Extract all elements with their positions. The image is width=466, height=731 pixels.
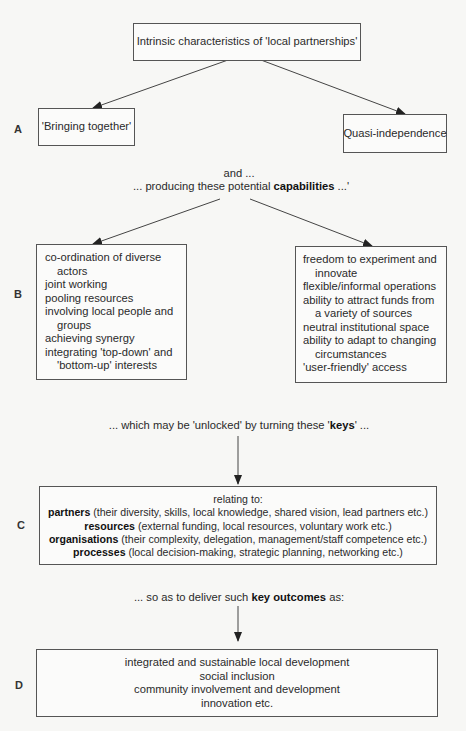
capability-item: ability to attract funds from a variety … — [303, 294, 440, 321]
connector-outcomes: ... so as to deliver such key outcomes a… — [6, 591, 466, 604]
keys-keyword: keys — [330, 419, 355, 431]
keys-prefix: ... which may be 'unlocked' by turning t… — [109, 419, 330, 431]
section-a-label: A — [14, 123, 22, 135]
key-row-organisations: organisations (their complexity, delegat… — [40, 533, 436, 546]
key-name: resources — [84, 520, 135, 532]
capability-item: integrating 'top-down' and 'bottom-up' i… — [45, 346, 178, 373]
keys-box: relating to: partners (their diversity, … — [39, 486, 437, 565]
capabilities-right-box: freedom to experiment and innovate flexi… — [295, 246, 447, 383]
capabilities-keyword: capabilities — [274, 180, 335, 192]
keys-suffix: ' ... — [355, 419, 370, 431]
capability-item: 'user-friendly' access — [303, 361, 440, 375]
key-name: processes — [73, 546, 125, 558]
key-detail: (their complexity, delegation, managemen… — [118, 533, 427, 545]
key-name: organisations — [49, 533, 118, 545]
capability-item: joint working — [45, 278, 178, 292]
intrinsic-characteristics-box: Intrinsic characteristics of 'local part… — [133, 23, 361, 61]
intrinsic-characteristics-text: Intrinsic characteristics of 'local part… — [137, 35, 358, 49]
keys-heading: relating to: — [40, 493, 436, 506]
section-c-label: C — [17, 519, 25, 531]
key-detail: (external funding, local resources, volu… — [135, 520, 392, 532]
capabilities-suffix: ...' — [334, 180, 349, 192]
outcome-item: innovation etc. — [37, 697, 437, 711]
key-row-partners: partners (their diversity, skills, local… — [40, 506, 436, 519]
capability-item: involving local people and groups — [45, 305, 178, 332]
outcome-item: social inclusion — [37, 670, 437, 684]
key-detail: (local decision-making, strategic planni… — [126, 546, 403, 558]
outcomes-keyword: key outcomes — [251, 591, 326, 603]
capabilities-prefix: ... producing these potential — [133, 180, 274, 192]
connector-capabilities: ... producing these potential capabiliti… — [8, 180, 466, 193]
key-name: partners — [48, 506, 90, 518]
bringing-together-box: 'Bringing together' — [38, 108, 135, 146]
capability-item: neutral institutional space — [303, 321, 440, 335]
capability-item: flexible/informal operations — [303, 280, 440, 294]
outcomes-prefix: ... so as to deliver such — [134, 591, 252, 603]
quasi-independence-text: Quasi-independence — [343, 127, 446, 141]
quasi-independence-box: Quasi-independence — [343, 114, 447, 153]
capability-item: achieving synergy — [45, 332, 178, 346]
key-detail: (their diversity, skills, local knowledg… — [90, 506, 428, 518]
outcomes-suffix: as: — [326, 591, 344, 603]
outcome-item: integrated and sustainable local develop… — [37, 656, 437, 670]
key-row-processes: processes (local decision-making, strate… — [40, 546, 436, 559]
section-b-label: B — [14, 288, 22, 300]
capability-item: ability to adapt to changing circumstanc… — [303, 334, 440, 361]
capability-item: co-ordination of diverse actors — [45, 251, 178, 278]
outcomes-box: integrated and sustainable local develop… — [36, 649, 438, 717]
section-d-label: D — [15, 679, 23, 691]
outcome-item: community involvement and development — [37, 683, 437, 697]
capability-item: freedom to experiment and innovate — [303, 253, 440, 280]
connector-and: and ... — [6, 167, 466, 180]
capabilities-left-box: co-ordination of diverse actors joint wo… — [36, 244, 187, 380]
connector-keys: ... which may be 'unlocked' by turning t… — [6, 419, 466, 432]
key-row-resources: resources (external funding, local resou… — [40, 520, 436, 533]
connector-and-text: and ... — [223, 167, 254, 179]
bringing-together-text: 'Bringing together' — [42, 120, 131, 134]
capability-item: pooling resources — [45, 292, 178, 306]
